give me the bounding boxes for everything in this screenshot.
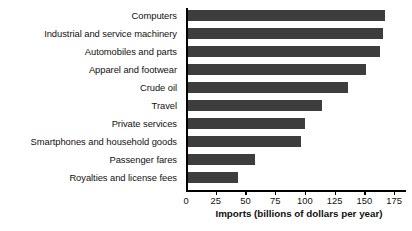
bar	[186, 28, 383, 39]
x-axis-line	[186, 190, 406, 192]
x-axis-tick-label: 100	[297, 195, 313, 206]
category-label: Automobiles and parts	[0, 46, 177, 57]
category-label: Private services	[0, 118, 177, 129]
bar	[186, 154, 255, 165]
bar-fill	[186, 64, 366, 75]
x-axis-title: Imports (billions of dollars per year)	[186, 208, 412, 219]
bar	[186, 136, 301, 147]
bar-fill	[186, 172, 238, 183]
bar-fill	[186, 10, 385, 21]
x-axis-tick-label: 150	[357, 195, 373, 206]
bar	[186, 10, 385, 21]
x-axis-tick-label: 25	[211, 195, 221, 206]
x-axis-tick-label: 175	[386, 195, 402, 206]
bar-fill	[186, 118, 305, 129]
category-label: Passenger fares	[0, 154, 177, 165]
category-label: Smartphones and household goods	[0, 136, 177, 147]
category-label: Apparel and footwear	[0, 64, 177, 75]
plot-area	[186, 0, 412, 190]
category-label: Industrial and service machinery	[0, 28, 177, 39]
x-axis-tick-label: 125	[327, 195, 343, 206]
bar-fill	[186, 82, 348, 93]
bar	[186, 46, 380, 57]
bar-fill	[186, 154, 255, 165]
x-axis-tick-label: 0	[183, 195, 188, 206]
category-label: Royalties and license fees	[0, 172, 177, 183]
bar	[186, 64, 366, 75]
bar-fill	[186, 28, 383, 39]
bar-fill	[186, 100, 322, 111]
x-axis-tick-label: 50	[240, 195, 250, 206]
bar-fill	[186, 46, 380, 57]
category-label: Travel	[0, 100, 177, 111]
bar	[186, 82, 348, 93]
category-label: Crude oil	[0, 82, 177, 93]
bar-chart-figure: ComputersIndustrial and service machiner…	[0, 0, 412, 231]
bar	[186, 100, 322, 111]
y-axis-spine	[186, 8, 188, 191]
bar-fill	[186, 136, 301, 147]
bar	[186, 118, 305, 129]
bar	[186, 172, 238, 183]
category-axis-labels: ComputersIndustrial and service machiner…	[0, 0, 181, 190]
x-axis-tick-label: 75	[270, 195, 280, 206]
category-label: Computers	[0, 10, 177, 21]
